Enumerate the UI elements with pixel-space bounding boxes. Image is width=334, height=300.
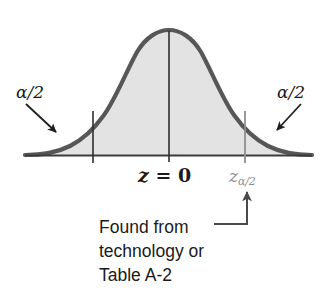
equals-glyph: = <box>149 164 178 186</box>
caption-line-2: technology or <box>99 239 204 263</box>
z-critical-value-label: zα/2 <box>229 166 256 188</box>
caption-line-3: Table A-2 <box>99 263 204 287</box>
z-critical-base-glyph: z <box>229 166 238 186</box>
zero-glyph: 0 <box>178 164 191 186</box>
alpha-over-two-label-right: α/2 <box>277 82 305 102</box>
alpha-left-arrow <box>26 104 56 132</box>
caption-elbow-arrow <box>214 192 247 224</box>
caption-text-block: Found from technology or Table A-2 <box>99 215 204 287</box>
z-variable-glyph: z <box>138 164 149 186</box>
z-critical-subscript-glyph: α/2 <box>238 175 256 188</box>
caption-line-1: Found from <box>99 215 204 239</box>
alpha-over-two-label-left: α/2 <box>16 82 44 102</box>
alpha-right-arrow <box>277 104 301 130</box>
z-equals-zero-label: z = 0 <box>138 164 191 186</box>
